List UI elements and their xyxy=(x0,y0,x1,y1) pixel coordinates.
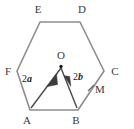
vertex-label-a: A xyxy=(23,114,31,126)
vector-2a-label-symbol: a xyxy=(27,73,32,84)
center-point-dot xyxy=(59,65,62,68)
vertex-label-c: C xyxy=(111,65,118,77)
hexagon-vector-diagram: A B C D E F O M 2a 2b xyxy=(0,0,134,129)
vector-2b-label-symbol: b xyxy=(78,71,83,82)
vector-2b-label: 2b xyxy=(73,71,83,82)
diagram-canvas: A B C D E F O M 2a 2b xyxy=(0,0,134,129)
point-label-m: M xyxy=(95,83,105,95)
vertex-label-e: E xyxy=(35,3,42,15)
vector-2a-label: 2a xyxy=(22,73,32,84)
vertex-label-d: D xyxy=(78,3,86,15)
vertex-label-b: B xyxy=(72,114,79,126)
point-label-o: O xyxy=(57,49,65,61)
vertex-label-f: F xyxy=(5,65,11,77)
vector-2a-arrowhead xyxy=(47,74,58,87)
